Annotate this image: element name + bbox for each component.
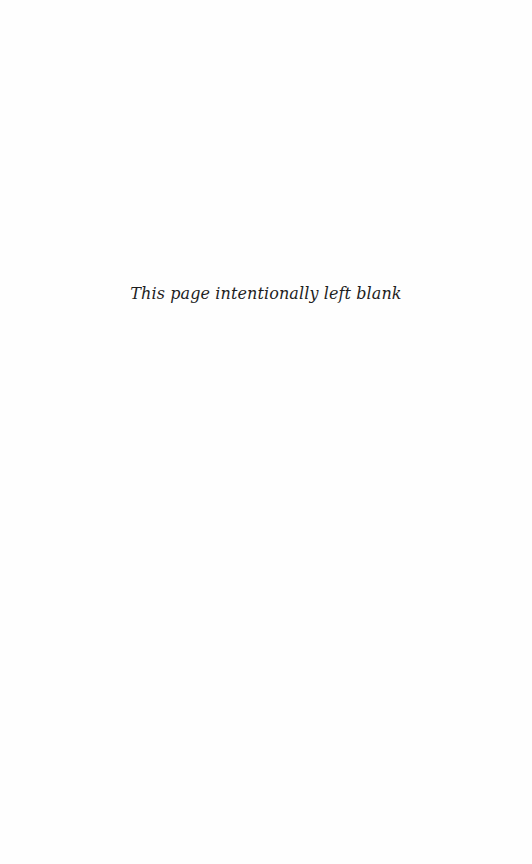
- document-page: This page intentionally left blank: [0, 0, 532, 864]
- blank-page-notice: This page intentionally left blank: [0, 284, 532, 303]
